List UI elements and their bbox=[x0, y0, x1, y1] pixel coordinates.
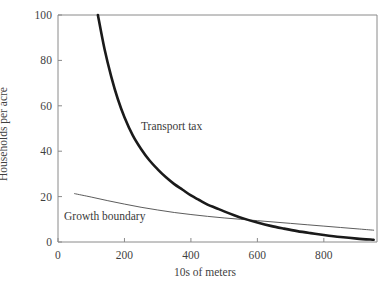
x-tick-label: 200 bbox=[116, 249, 134, 261]
y-tick-label: 80 bbox=[20, 54, 52, 66]
transport-tax-curve bbox=[98, 15, 374, 240]
x-tick-label: 0 bbox=[55, 249, 61, 261]
y-axis-tick-marks bbox=[58, 15, 62, 242]
y-tick-label: 40 bbox=[20, 145, 52, 157]
x-axis-title: 10s of meters bbox=[174, 266, 236, 278]
chart-figure: 0200400600800 020406080100 10s of meters… bbox=[0, 0, 389, 295]
y-tick-label: 0 bbox=[20, 236, 52, 248]
transport-tax-label: Transport tax bbox=[141, 120, 202, 132]
growth-boundary-label: Growth boundary bbox=[64, 210, 145, 222]
y-tick-label: 60 bbox=[20, 100, 52, 112]
y-tick-label: 100 bbox=[20, 9, 52, 21]
x-tick-label: 800 bbox=[315, 249, 333, 261]
y-axis-title: Households per acre bbox=[0, 87, 9, 181]
x-tick-label: 600 bbox=[249, 249, 267, 261]
x-tick-label: 400 bbox=[182, 249, 200, 261]
x-axis-tick-marks bbox=[58, 238, 324, 242]
y-tick-label: 20 bbox=[20, 191, 52, 203]
